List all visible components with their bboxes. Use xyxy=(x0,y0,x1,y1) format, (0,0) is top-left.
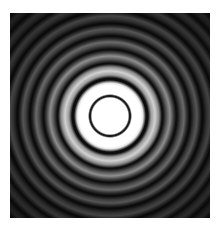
concentric-rings xyxy=(10,13,210,218)
interference-pattern-image xyxy=(10,13,210,218)
